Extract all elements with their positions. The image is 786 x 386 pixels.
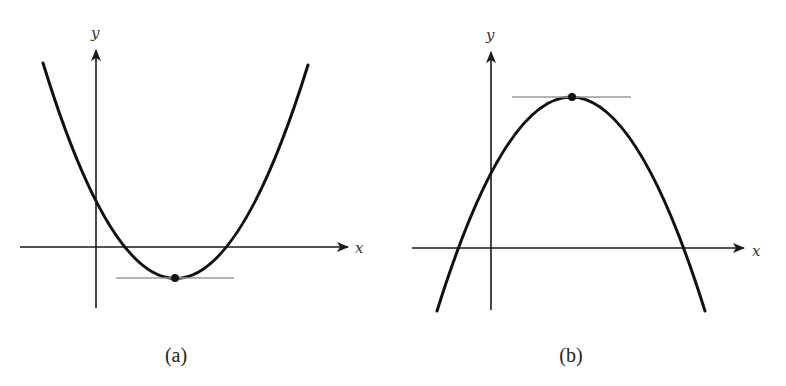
panel-caption: (a) — [165, 344, 187, 367]
panel-a: x y (a) — [20, 24, 364, 367]
y-axis-label: y — [485, 26, 495, 44]
figure-canvas: x y (a) x y (b) — [0, 0, 786, 386]
parabola-curve — [437, 97, 705, 311]
parabola-curve — [43, 63, 308, 279]
minimum-point — [171, 274, 179, 282]
x-axis-label: x — [752, 242, 761, 260]
panel-b: x y (b) — [412, 26, 761, 367]
x-axis-label: x — [355, 239, 364, 257]
panel-caption: (b) — [559, 344, 582, 367]
y-axis-label: y — [90, 24, 100, 42]
maximum-point — [568, 93, 576, 101]
